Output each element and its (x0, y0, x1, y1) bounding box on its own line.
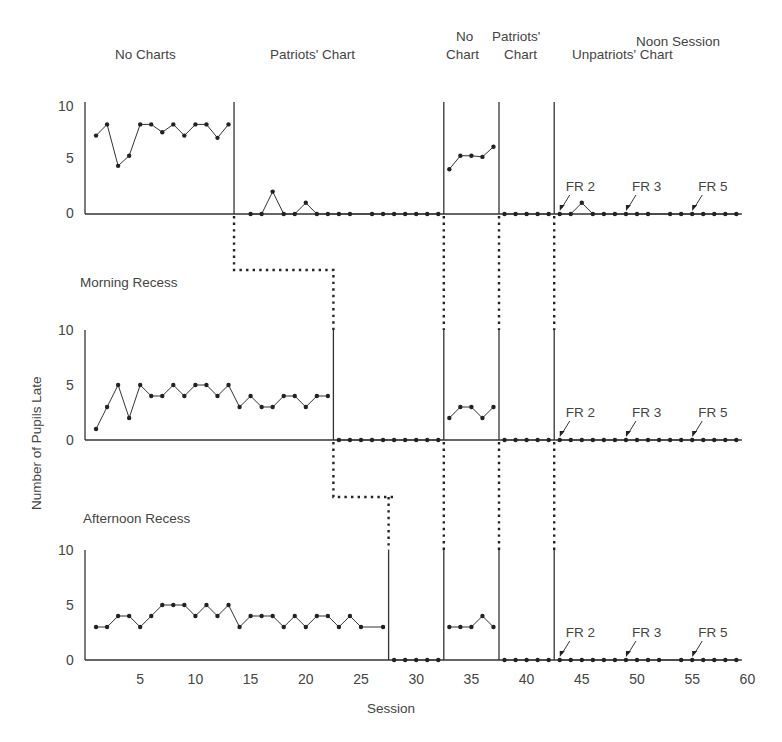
y-axis-label: Number of Pupils Late (29, 376, 44, 510)
data-point (425, 438, 429, 442)
data-point (282, 625, 286, 629)
data-point (226, 383, 230, 387)
data-point (690, 438, 694, 442)
fr-annotation: FR 5 (698, 625, 727, 640)
data-point (646, 438, 650, 442)
data-point (690, 658, 694, 662)
data-point (679, 438, 683, 442)
data-point (635, 438, 639, 442)
x-tick-label: 35 (464, 671, 480, 687)
y-tick-0: 0 (66, 652, 74, 668)
data-point (425, 658, 429, 662)
data-point (293, 614, 297, 618)
data-point (723, 658, 727, 662)
arrow-head-icon (692, 651, 697, 657)
data-point (348, 438, 352, 442)
data-point (116, 614, 120, 618)
y-tick-10: 10 (58, 98, 74, 114)
data-point (458, 625, 462, 629)
data-point (94, 427, 98, 431)
data-point (370, 212, 374, 216)
phase-label-chart: Chart (446, 47, 479, 62)
data-point (392, 212, 396, 216)
data-point (138, 383, 142, 387)
data-point (602, 438, 606, 442)
data-point (392, 438, 396, 442)
data-point (425, 212, 429, 216)
data-point (635, 658, 639, 662)
data-point (580, 201, 584, 205)
data-point (635, 212, 639, 216)
plot-content: FR 2FR 3FR 5FR 2FR 3FR 5FR 2FR 3FR 55101… (85, 102, 755, 687)
data-point (701, 658, 705, 662)
data-point (403, 438, 407, 442)
arrow-head-icon (692, 205, 697, 211)
data-point (138, 625, 142, 629)
multiple-baseline-chart: Noon Session No Charts Patriots' Chart N… (0, 0, 782, 742)
data-point (546, 658, 550, 662)
data-point (723, 212, 727, 216)
data-point (580, 658, 584, 662)
data-point (491, 145, 495, 149)
phase-label-no: No (456, 29, 473, 44)
x-tick-label: 20 (298, 671, 314, 687)
fr-annotation: FR 3 (632, 625, 661, 640)
data-point (513, 438, 517, 442)
data-point (282, 212, 286, 216)
data-point (591, 212, 595, 216)
data-point (657, 658, 661, 662)
data-point (138, 122, 142, 126)
data-point (348, 212, 352, 216)
data-point (160, 130, 164, 134)
fr-annotation: FR 3 (632, 179, 661, 194)
data-point (734, 658, 738, 662)
data-point (657, 438, 661, 442)
data-point (624, 658, 628, 662)
data-point (204, 383, 208, 387)
data-point (127, 614, 131, 618)
y-tick-0: 0 (66, 432, 74, 448)
data-point (569, 212, 573, 216)
data-point (591, 438, 595, 442)
data-point (315, 394, 319, 398)
arrow-head-icon (560, 651, 565, 657)
data-point (315, 614, 319, 618)
data-point (259, 212, 263, 216)
data-point (182, 133, 186, 137)
y-tick-10: 10 (58, 542, 74, 558)
x-tick-label: 25 (353, 671, 369, 687)
panel-title-morning: Morning Recess (80, 275, 178, 290)
fr-annotation: FR 2 (566, 179, 595, 194)
fr-annotation: FR 5 (698, 179, 727, 194)
y-tick-10: 10 (58, 322, 74, 338)
data-point (491, 625, 495, 629)
phase-label-chart-2: Chart (504, 47, 537, 62)
data-point (160, 394, 164, 398)
data-point (701, 212, 705, 216)
data-point (193, 614, 197, 618)
data-line (251, 192, 439, 214)
arrow-head-icon (626, 205, 631, 211)
data-point (701, 438, 705, 442)
data-point (591, 658, 595, 662)
data-point (105, 405, 109, 409)
data-point (337, 625, 341, 629)
data-point (304, 625, 308, 629)
data-point (403, 212, 407, 216)
data-point (491, 405, 495, 409)
data-point (502, 438, 506, 442)
fr-annotation: FR 5 (698, 405, 727, 420)
data-line (96, 605, 383, 627)
data-line (96, 385, 328, 429)
data-point (535, 212, 539, 216)
data-point (160, 603, 164, 607)
data-point (270, 405, 274, 409)
data-point (679, 212, 683, 216)
data-point (447, 625, 451, 629)
data-point (602, 212, 606, 216)
phase-label-unpatriots-chart: Unpatriots' Chart (572, 47, 673, 62)
data-point (215, 394, 219, 398)
data-point (237, 405, 241, 409)
data-point (237, 625, 241, 629)
data-point (513, 212, 517, 216)
